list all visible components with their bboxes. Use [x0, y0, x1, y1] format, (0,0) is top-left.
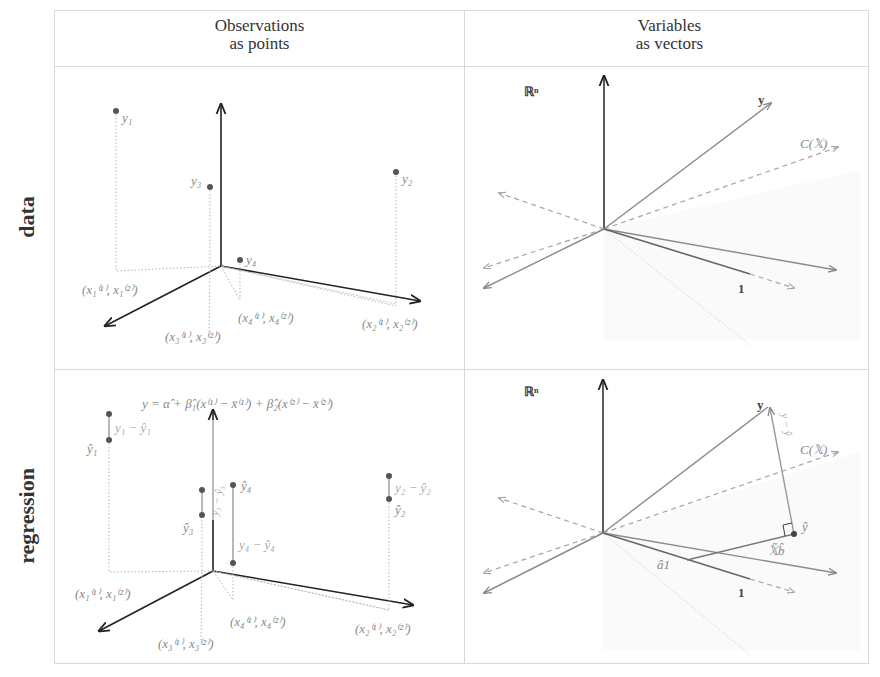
row-label-data: data — [0, 65, 54, 368]
fitted-y4-label: ŷ₄ — [239, 478, 252, 493]
data-points — [113, 108, 399, 263]
vector-left — [484, 229, 604, 288]
column-header-observations-line1: Observations — [55, 17, 464, 35]
point-y2 — [393, 169, 399, 175]
yhat-label: ŷ — [800, 519, 808, 534]
one-vector-label: 1 — [738, 281, 745, 296]
fitted-y1-label: ŷ₁ — [85, 441, 97, 456]
a1-label: â1 — [657, 557, 670, 572]
fitted-y3-label: ŷ₃ — [181, 520, 193, 535]
colspace-label: C(𝕏) — [800, 442, 827, 457]
space-label: ℝⁿ — [524, 84, 539, 99]
row-label-data-text: data — [14, 196, 40, 238]
row-label-regression-text: regression — [14, 468, 40, 564]
point-y3 — [207, 184, 213, 190]
residual-1-label: y₁ − ŷ₁ — [113, 420, 151, 435]
residual-3-label: y₃ − ŷ₃ — [208, 484, 225, 517]
column-space-plane — [604, 170, 860, 340]
label-y2: y₂ — [400, 171, 413, 186]
column-header-variables-line2: as vectors — [465, 35, 874, 53]
regression-equation: y = α̂ + β̂₁(x⁽¹⁾ − x̄⁽¹⁾) + β̂₂(x⁽²⁾ − … — [140, 396, 333, 411]
residual-label: y − ŷ — [779, 411, 795, 437]
coord-x2: (x₂⁽¹⁾, x₂⁽²⁾) — [362, 316, 418, 331]
column-header-observations-line2: as points — [55, 35, 464, 53]
vector-left — [484, 533, 603, 593]
label-y3: y₃ — [189, 173, 201, 188]
space-label: ℝⁿ — [524, 384, 539, 399]
residual-4-label: y₄ − ŷ₄ — [237, 537, 275, 552]
column-header-variables-line1: Variables — [465, 17, 874, 35]
coord-x3: (x₃⁽¹⁾, x₃⁽²⁾) — [158, 636, 214, 651]
point-yhat — [791, 531, 797, 537]
vector-y-label: y — [757, 397, 764, 412]
column-header-variables: Variables as vectors — [465, 17, 874, 53]
panel-data-vectors: ℝⁿ y C(𝕏) 1 — [464, 66, 869, 368]
vector-y-label: y — [758, 92, 765, 107]
label-y1: y₁ — [120, 110, 132, 125]
point-y1 — [113, 108, 119, 114]
residual-2-label: y₂ − ŷ₂ — [393, 480, 431, 495]
coord-x1: (x₁⁽¹⁾, x₁⁽²⁾) — [82, 282, 138, 297]
coord-x4: (x₄⁽¹⁾, x₄⁽²⁾) — [238, 310, 294, 325]
label-y4: y₄ — [244, 252, 257, 267]
column-header-observations: Observations as points — [55, 17, 464, 53]
panel-regression-points: y = α̂ + β̂₁(x⁽¹⁾ − x̄⁽¹⁾) + β̂₂(x⁽²⁾ − … — [55, 369, 463, 664]
panel-data-points: y₁ y₂ y₃ y₄ (x₁⁽¹⁾, x₁⁽²⁾) (x₂⁽¹⁾, x₂⁽²⁾… — [55, 66, 463, 368]
dashed-axis-back — [499, 498, 603, 533]
fitted-y2-label: ŷ₂ — [393, 502, 406, 517]
coord-x2: (x₂⁽¹⁾, x₂⁽²⁾) — [355, 621, 411, 636]
panel-regression-vectors: ℝⁿ y ŷ y − ŷ C(𝕏) â1 𝕏̃b̂ 1 — [464, 369, 869, 664]
coord-x3: (x₃⁽¹⁾, x₃⁽²⁾) — [165, 329, 221, 344]
axes-3d — [99, 410, 413, 631]
axes-3d — [105, 104, 420, 326]
xb-label: 𝕏̃b̂ — [768, 542, 785, 558]
projection-lines — [116, 111, 396, 335]
dashed-axis-back — [499, 193, 604, 229]
coord-x4: (x₄⁽¹⁾, x₄⁽²⁾) — [230, 614, 286, 629]
dashed-axis-left — [484, 229, 604, 268]
row-label-regression: regression — [0, 368, 54, 664]
one-vector-label: 1 — [738, 585, 745, 600]
colspace-label: C(𝕏) — [800, 136, 827, 151]
coord-x1: (x₁⁽¹⁾, x₁⁽²⁾) — [75, 586, 131, 601]
dashed-axis-left — [484, 533, 603, 573]
column-space-plane — [603, 452, 860, 650]
point-y4 — [237, 257, 243, 263]
